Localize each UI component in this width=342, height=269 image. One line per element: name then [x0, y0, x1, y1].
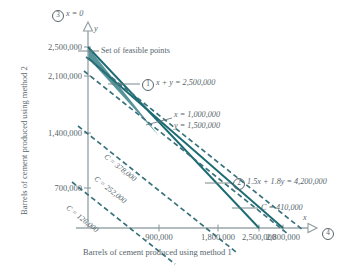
x-axis-arrow-label: x: [303, 214, 307, 222]
objective-line-c378000: [84, 71, 288, 234]
x-axis-arrow-icon: [308, 224, 317, 233]
chart-canvas: 3 x = 0 y x 4 2,500,000 2,100,000 1,400,…: [0, 0, 342, 269]
marker-3-group: 3 x = 0: [52, 10, 83, 22]
constraint-line-1: [88, 47, 259, 228]
constraint-2-label: 1.5x + 1.8y = 4,200,000: [247, 177, 327, 186]
marker-2: 2: [233, 178, 245, 190]
marker-1: 1: [142, 79, 154, 91]
y-tick-label-700000: 700,000: [28, 184, 82, 193]
marker-4-group: 4: [322, 221, 334, 240]
marker-3: 3: [52, 10, 64, 22]
vertex-x-label: x = 1,000,000: [174, 111, 220, 119]
constraint-1-label: x + y = 2,500,000: [156, 78, 215, 87]
label-x-equals-zero: x = 0: [66, 9, 83, 18]
y-tick-label-2500000: 2,500,000: [28, 43, 82, 52]
vertex-y-label: y = 1,500,000: [174, 122, 220, 130]
y-tick-label-2100000: 2,100,000: [28, 72, 82, 81]
y-axis-arrow-label: y: [94, 25, 98, 33]
x-tick-label-2800000: 2,800,000: [253, 233, 313, 242]
y-axis-title: Barrels of cement produced using method …: [20, 66, 29, 215]
x-axis-title: Barrels of cement produced using method …: [83, 248, 232, 257]
objective-label-c410000: C = 410,000: [261, 204, 303, 212]
constraint-2-label-group: 2 1.5x + 1.8y = 4,200,000: [233, 178, 327, 190]
y-axis-arrow-icon: [84, 22, 93, 31]
y-tick-label-1400000: 1,400,000: [28, 129, 82, 138]
constraint-1-label-group: 1 x + y = 2,500,000: [142, 79, 215, 91]
marker-4: 4: [322, 228, 334, 240]
x-tick-label-900000: 900,000: [129, 233, 189, 242]
feasible-set-label: Set of feasible points: [101, 47, 170, 55]
